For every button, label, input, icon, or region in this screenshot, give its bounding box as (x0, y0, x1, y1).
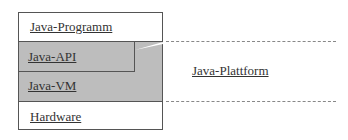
api-corner-highlight-icon (135, 42, 163, 50)
java-platform-region: Java-API Java-VM (19, 42, 162, 102)
platform-top-divider (166, 41, 336, 42)
java-programm-label[interactable]: Java-Programm (30, 19, 112, 35)
java-vm-label[interactable]: Java-VM (28, 78, 76, 94)
java-plattform-label[interactable]: Java-Plattform (192, 63, 269, 79)
platform-bottom-divider (166, 101, 336, 102)
java-api-label[interactable]: Java-API (28, 49, 76, 65)
layer-java-programm: Java-Programm (19, 13, 162, 42)
layer-java-api: Java-API (19, 42, 135, 72)
layer-stack: Java-Programm Java-API Java-VM Hardware (18, 12, 163, 130)
hardware-label[interactable]: Hardware (30, 109, 81, 125)
